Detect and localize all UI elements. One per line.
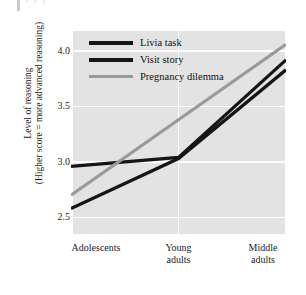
- y-tick-label: 3.0: [44, 156, 70, 167]
- y-axis-title-line1: Level of reasoning: [23, 13, 34, 193]
- x-tick-label: Adolescents: [59, 242, 133, 254]
- x-tick-label-line: adults: [226, 254, 300, 266]
- legend-item: Visit story: [89, 54, 224, 65]
- legend-swatch-icon: [89, 41, 133, 45]
- legend-swatch-icon: [89, 75, 133, 78]
- cut-off-text-above: r y y: [26, 0, 48, 4]
- chart-legend: Livia task Visit story Pregnancy dilemma: [89, 37, 224, 82]
- y-tick-label: 4.0: [44, 45, 70, 56]
- y-axis-tick-labels: 4.0 3.5 3.0 2.5: [40, 14, 70, 272]
- y-tick-label: 2.5: [44, 211, 70, 222]
- plot-area: Livia task Visit story Pregnancy dilemma: [71, 31, 286, 234]
- legend-item: Livia task: [89, 37, 224, 48]
- page-margin-bar: [17, 0, 20, 11]
- legend-swatch-icon: [89, 58, 133, 62]
- page-top-artifact: r y y: [0, 0, 306, 14]
- legend-label: Visit story: [140, 54, 183, 65]
- x-tick-label: Youngadults: [142, 242, 216, 265]
- x-tick-label-line: Young: [142, 242, 216, 254]
- y-tick-label: 3.5: [44, 100, 70, 111]
- x-tick-label: Middleadults: [226, 242, 300, 265]
- x-axis-tick-labels: Adolescents Youngadults Middleadults: [71, 238, 286, 272]
- legend-item: Pregnancy dilemma: [89, 71, 224, 82]
- chart-figure: Level of reasoning (Higher score = more …: [0, 14, 306, 272]
- legend-label: Pregnancy dilemma: [140, 71, 224, 82]
- x-tick-label-line: Adolescents: [59, 242, 133, 254]
- legend-label: Livia task: [140, 37, 182, 48]
- x-tick-label-line: Middle: [226, 242, 300, 254]
- x-tick-label-line: adults: [142, 254, 216, 266]
